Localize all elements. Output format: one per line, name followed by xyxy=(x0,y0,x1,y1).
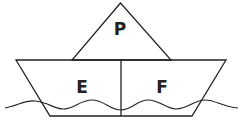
label-e: E xyxy=(76,77,88,97)
label-p: P xyxy=(114,19,126,39)
label-f: F xyxy=(156,77,168,97)
boat-diagram: P E F xyxy=(0,0,240,121)
